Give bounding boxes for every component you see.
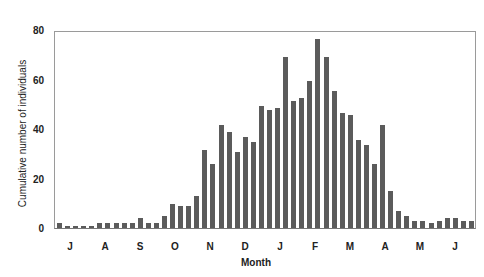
bar [105, 223, 110, 228]
x-tick-label: A [95, 241, 115, 252]
bar [340, 113, 345, 228]
bar [97, 223, 102, 228]
x-tick-label: M [340, 241, 360, 252]
bar [122, 223, 127, 228]
bar [114, 223, 119, 228]
x-tick-label: S [130, 241, 150, 252]
bar [388, 191, 393, 228]
bar [162, 216, 167, 228]
x-axis-label: Month [226, 257, 286, 268]
x-tick-label: J [270, 241, 290, 252]
bar [65, 226, 70, 228]
bar [348, 115, 353, 228]
bar [396, 211, 401, 228]
bar [57, 223, 62, 228]
bar [332, 91, 337, 228]
bar [243, 137, 248, 228]
bar [315, 39, 320, 228]
bar [437, 221, 442, 228]
bar [267, 110, 272, 228]
bar [227, 132, 232, 228]
y-tick-label: 0 [14, 223, 44, 234]
bar [154, 223, 159, 228]
bar [453, 218, 458, 228]
bar [380, 125, 385, 228]
plot-area [54, 31, 476, 229]
bar [251, 142, 256, 228]
bar [299, 98, 304, 228]
bar [194, 196, 199, 228]
x-tick-label: J [445, 241, 465, 252]
bar [210, 164, 215, 228]
bar [356, 140, 361, 228]
x-tick-label: O [165, 241, 185, 252]
bar [146, 223, 151, 228]
bar [89, 226, 94, 228]
x-tick-label: D [235, 241, 255, 252]
bar [130, 223, 135, 228]
bar [202, 150, 207, 228]
bar [307, 81, 312, 228]
x-tick-label: N [200, 241, 220, 252]
x-tick-label: J [60, 241, 80, 252]
bar [170, 204, 175, 229]
bar [275, 108, 280, 228]
bar [324, 57, 329, 229]
bar [404, 216, 409, 228]
x-tick-label: A [375, 241, 395, 252]
bar [219, 125, 224, 228]
bar [178, 206, 183, 228]
x-tick-label: F [305, 241, 325, 252]
y-tick-label: 80 [14, 25, 44, 36]
x-tick-label: M [410, 241, 430, 252]
bar [283, 57, 288, 229]
bar [461, 221, 466, 228]
bar [364, 145, 369, 228]
bar [73, 226, 78, 228]
bar [235, 152, 240, 228]
bar [445, 218, 450, 228]
bar [412, 221, 417, 228]
bar [138, 218, 143, 228]
bar [372, 164, 377, 228]
bar [259, 106, 264, 229]
y-axis-label: Cumulative number of individuals [17, 44, 28, 224]
bar [81, 226, 86, 228]
bar [186, 206, 191, 228]
bar [291, 101, 296, 228]
bar [420, 221, 425, 228]
bar [469, 221, 474, 228]
bar [429, 223, 434, 228]
